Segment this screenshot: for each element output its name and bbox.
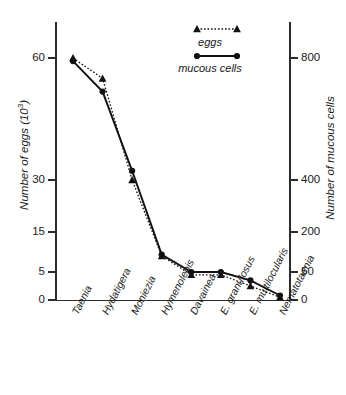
left-axis-title: Number of eggs (103): [16, 80, 30, 230]
data-point-mucous-cells-e-multilocularis: [247, 277, 253, 283]
left-axis-title-text: Number of eggs (10: [18, 108, 30, 210]
chart-container: 05153060 050200400800 TaeniaHydatigeraMo…: [0, 0, 346, 395]
data-point-mucous-cells-taenia: [70, 58, 76, 64]
data-point-mucous-cells-davainea: [188, 269, 194, 275]
data-point-mucous-cells-nematotaenia: [277, 292, 283, 298]
plot-area: [0, 0, 346, 395]
left-axis-title-exponent: 3: [16, 104, 25, 108]
legend-marker-eggs-left: [193, 25, 201, 32]
data-point-mucous-cells-hydatigera: [99, 88, 105, 94]
legend-marker-mucous-right: [234, 53, 240, 59]
legend-marker-mucous-left: [194, 53, 200, 59]
legend-label-eggs: eggs: [160, 36, 260, 48]
left-axis-title-tail: ): [18, 100, 30, 104]
series-line-mucous-cells: [73, 61, 280, 295]
right-axis-title: Number of mucous cells: [324, 83, 336, 233]
legend-marker-eggs-right: [233, 25, 241, 32]
data-point-mucous-cells-e-granulosus: [218, 269, 224, 275]
data-point-eggs-hydatigera: [99, 74, 107, 81]
legend-label-mucous-cells: mucous cells: [150, 62, 270, 74]
data-point-mucous-cells-hymenolepis: [159, 252, 165, 258]
data-point-mucous-cells-moniezia: [129, 168, 135, 174]
